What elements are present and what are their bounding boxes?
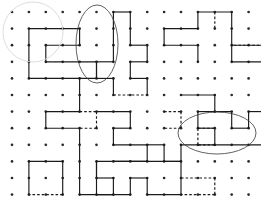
lattice-dot <box>11 160 14 163</box>
lattice-dot <box>78 11 81 14</box>
lattice-dot <box>230 94 233 97</box>
lattice-canvas <box>0 0 261 214</box>
lattice-dot <box>180 60 183 63</box>
lattice-dot <box>28 143 31 146</box>
lattice-dot <box>180 11 183 14</box>
lattice-dot <box>95 143 98 146</box>
lattice-dot <box>247 177 250 180</box>
lattice-dot <box>197 77 200 80</box>
lattice-dot <box>95 94 98 97</box>
ellipse-horizontal-right <box>178 112 256 154</box>
lattice-dot <box>11 27 14 30</box>
lattice-dot <box>11 77 14 80</box>
lattice-dot <box>11 177 14 180</box>
lattice-dot <box>230 177 233 180</box>
lattice-dot <box>28 127 31 130</box>
lattice-dot <box>213 160 216 163</box>
ellipse-faint-top-left <box>3 2 63 62</box>
solid-path-layer <box>29 12 261 195</box>
lattice-dot <box>11 44 14 47</box>
lattice-dot <box>44 94 47 97</box>
lattice-dot <box>163 11 166 14</box>
lattice-dot <box>95 11 98 14</box>
lattice-dot <box>247 193 250 196</box>
lattice-dot <box>44 143 47 146</box>
lattice-dot <box>11 143 14 146</box>
lattice-dot <box>247 27 250 30</box>
lattice-dot <box>11 60 14 63</box>
lattice-dot <box>247 77 250 80</box>
lattice-dot <box>146 110 149 113</box>
lattice-dot <box>11 193 14 196</box>
lattice-dot <box>197 160 200 163</box>
lattice-dot <box>213 60 216 63</box>
lattice-dot <box>163 94 166 97</box>
lattice-dot <box>213 44 216 47</box>
lattice-dot <box>163 60 166 63</box>
lattice-dot <box>247 11 250 14</box>
lattice-dot <box>247 94 250 97</box>
lattice-dot <box>146 127 149 130</box>
lattice-dot <box>44 11 47 14</box>
lattice-dot <box>11 110 14 113</box>
lattice-dot <box>163 177 166 180</box>
lattice-dot <box>95 44 98 47</box>
lattice-dot <box>247 160 250 163</box>
lattice-dot <box>11 127 14 130</box>
lattice-dot <box>61 11 64 14</box>
lattice-dot <box>163 77 166 80</box>
lattice-dot <box>44 177 47 180</box>
lattice-dot <box>28 94 31 97</box>
lattice-dot <box>28 11 31 14</box>
lattice-dot <box>230 193 233 196</box>
lattice-dot <box>213 77 216 80</box>
lattice-dot <box>61 94 64 97</box>
lattice-dot <box>230 77 233 80</box>
lattice-dot <box>180 77 183 80</box>
lattice-dot <box>11 94 14 97</box>
lattice-dot <box>146 11 149 14</box>
lattice-dot <box>28 110 31 113</box>
lattice-dot <box>95 27 98 30</box>
dashed-path-layer <box>29 12 261 195</box>
lattice-figure <box>0 0 261 214</box>
lattice-dot <box>61 143 64 146</box>
lattice-dot <box>230 160 233 163</box>
lattice-dot <box>146 27 149 30</box>
